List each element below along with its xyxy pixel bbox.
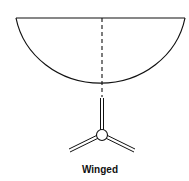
hub-circle	[97, 130, 108, 141]
winged-diagram	[0, 0, 189, 181]
wing-left	[69, 135, 99, 152]
stem	[101, 98, 104, 130]
bowl-curve	[16, 18, 185, 83]
diagram-label: Winged	[0, 164, 189, 175]
wing-right	[106, 135, 136, 152]
bowl	[16, 18, 185, 83]
